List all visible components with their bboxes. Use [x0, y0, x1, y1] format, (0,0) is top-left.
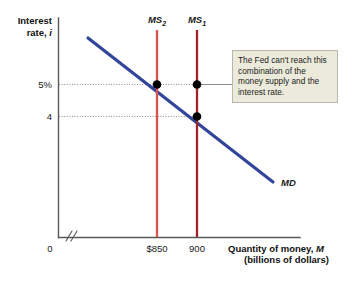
point-unreachable-combination	[193, 80, 202, 89]
curve-label-ms1: MS1	[188, 14, 206, 27]
axis-break-icon-second	[71, 231, 77, 241]
y-tick-label-4: 4	[47, 111, 52, 122]
x-tick-label-900: 900	[189, 243, 205, 254]
axis-break-icon	[66, 231, 72, 241]
money-market-chart: Interest rate, i 5% 4 0 $850 900 Quantit…	[0, 0, 357, 283]
chart-canvas: Interest rate, i 5% 4 0 $850 900 Quantit…	[0, 0, 357, 283]
x-axis-title: Quantity of money, M	[228, 243, 325, 254]
x-tick-label-850: $850	[146, 243, 167, 254]
curve-label-ms2: MS2	[148, 14, 166, 27]
y-tick-label-5-percent: 5%	[38, 79, 52, 90]
y-axis-title-line1: Interest	[18, 15, 53, 26]
curve-label-md: MD	[281, 177, 296, 188]
point-equilibrium-ms1	[193, 112, 202, 121]
y-axis-title-line2: rate, i	[27, 27, 53, 38]
origin-label: 0	[47, 243, 52, 254]
fed-callout-annotation: The Fed can't reach this combination of …	[232, 50, 338, 103]
point-equilibrium-ms2	[153, 80, 162, 89]
gridlines-group	[59, 85, 197, 117]
x-axis-subtitle: (billions of dollars)	[244, 254, 329, 265]
